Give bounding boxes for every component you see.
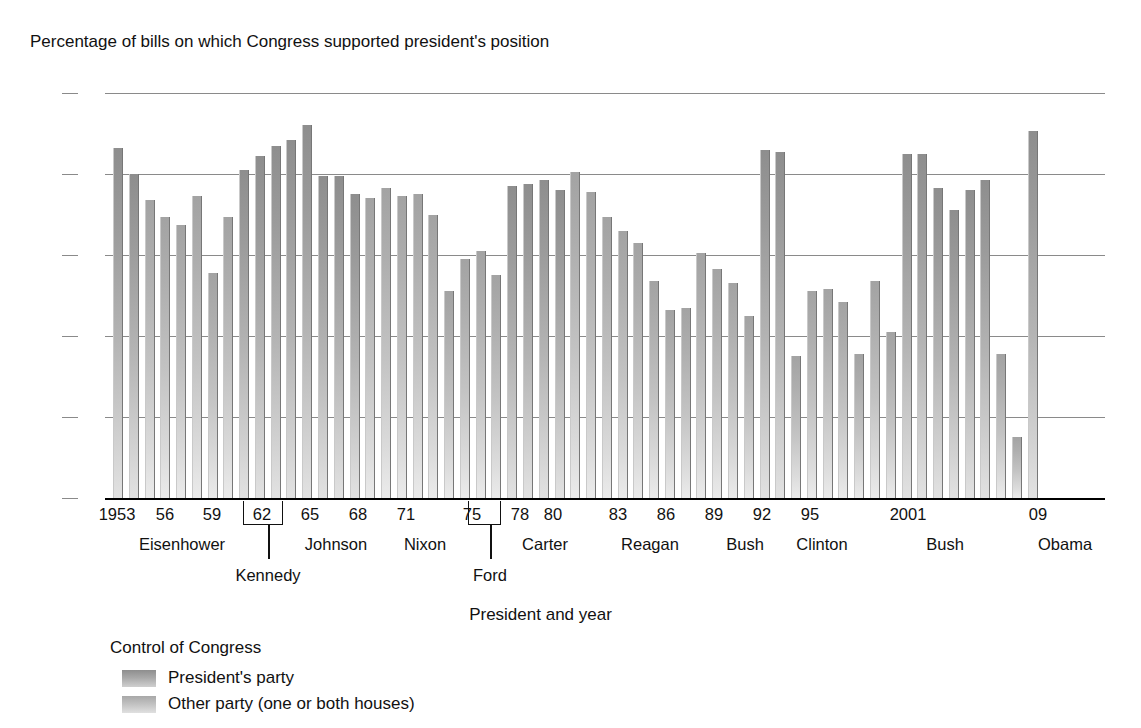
year-bracket (243, 501, 283, 525)
x-axis-year-label: 95 (801, 505, 819, 524)
year-bracket-stem (490, 525, 492, 559)
bar (539, 180, 549, 498)
bar (413, 194, 423, 498)
bar (160, 217, 170, 498)
bar (381, 188, 391, 498)
bar (129, 174, 139, 498)
legend-swatch-pres (122, 670, 156, 687)
bar (239, 170, 249, 498)
gridline-100 (105, 93, 1105, 94)
x-axis-president-label: Bush (926, 535, 964, 554)
plot-area (105, 93, 1105, 498)
bar (681, 308, 691, 498)
bar (428, 215, 438, 499)
bar (618, 231, 628, 498)
bar (980, 180, 990, 498)
x-axis-title-label: President and year (469, 605, 612, 625)
x-axis: 19535659626568717578808386899295200109Ei… (0, 498, 1141, 618)
legend-items: President's partyOther party (one or bot… (110, 665, 415, 717)
year-bracket (468, 501, 501, 525)
legend-item-label: Other party (one or both houses) (168, 694, 415, 714)
bar (523, 184, 533, 498)
legend-item-label: President's party (168, 668, 294, 688)
bar (823, 289, 833, 498)
y-tick-100 (62, 93, 78, 94)
x-axis-year-label: 86 (657, 505, 675, 524)
x-axis-president-label: Carter (522, 535, 568, 554)
bar (854, 354, 864, 498)
x-axis-year-label: 89 (705, 505, 723, 524)
x-axis-year-label: 65 (301, 505, 319, 524)
bar (476, 251, 486, 498)
bar (649, 281, 659, 498)
bar (586, 192, 596, 498)
bar (113, 148, 123, 498)
legend-item: Other party (one or both houses) (110, 691, 415, 717)
bar (460, 259, 470, 498)
bar (208, 273, 218, 498)
chart-title: Percentage of bills on which Congress su… (30, 32, 549, 52)
bar (176, 225, 186, 498)
x-axis-year-label: 2001 (890, 505, 927, 524)
y-tick-20 (62, 417, 78, 418)
bar (491, 275, 501, 498)
bar (791, 356, 801, 498)
bar (902, 154, 912, 498)
y-axis-labels: 100%80%60%40%20%0% (0, 93, 80, 498)
bar (555, 190, 565, 498)
x-axis-president-label: Obama (1038, 535, 1092, 554)
chart-legend: Control of Congress President's partyOth… (110, 638, 415, 717)
bar (1028, 131, 1038, 498)
bar (507, 186, 517, 498)
bar (917, 154, 927, 498)
bar (775, 152, 785, 498)
bar (886, 332, 896, 498)
x-axis-president-label: Kennedy (235, 566, 300, 585)
legend-swatch-other (122, 696, 156, 713)
x-axis-year-label: 80 (544, 505, 562, 524)
bar (271, 146, 281, 498)
bar (302, 125, 312, 498)
bar (633, 243, 643, 498)
x-axis-president-label: Nixon (404, 535, 446, 554)
x-axis-year-label: 78 (511, 505, 529, 524)
bar (255, 156, 265, 498)
bar (712, 269, 722, 498)
bar (696, 253, 706, 498)
x-axis-year-label: 92 (753, 505, 771, 524)
bar (223, 217, 233, 498)
bar (286, 140, 296, 498)
y-tick-80 (62, 174, 78, 175)
x-axis-year-label: 1953 (99, 505, 136, 524)
bar (397, 196, 407, 498)
bar (807, 291, 817, 498)
bar (744, 316, 754, 498)
x-axis-president-label: Johnson (305, 535, 367, 554)
bar (965, 190, 975, 498)
x-axis-president-label: Clinton (796, 535, 847, 554)
bar (760, 150, 770, 498)
bar (1012, 437, 1022, 498)
x-axis-year-label: 71 (397, 505, 415, 524)
x-axis-year-label: 68 (349, 505, 367, 524)
bar (365, 198, 375, 498)
bar (996, 354, 1006, 498)
bar (145, 200, 155, 498)
x-axis-title: President and year (0, 605, 1141, 625)
legend-item: President's party (110, 665, 415, 691)
year-bracket-stem (268, 525, 270, 559)
x-axis-year-label: 09 (1029, 505, 1047, 524)
bar (334, 176, 344, 498)
bar (933, 188, 943, 498)
x-axis-year-label: 56 (156, 505, 174, 524)
x-axis-president-label: Bush (726, 535, 764, 554)
bar (870, 281, 880, 498)
y-tick-60 (62, 255, 78, 256)
x-axis-president-label: Reagan (621, 535, 679, 554)
bar (570, 172, 580, 498)
bar (838, 302, 848, 498)
bar (192, 196, 202, 498)
bar (665, 310, 675, 498)
bar (350, 194, 360, 498)
x-axis-president-label: Eisenhower (139, 535, 225, 554)
